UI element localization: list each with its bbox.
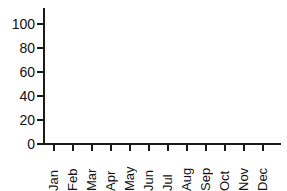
y-axis-tick-100 <box>37 23 43 25</box>
x-axis-tick-dec <box>262 145 264 151</box>
y-axis-tick-label-40: 40 <box>1 89 35 103</box>
x-axis-tick-label-jul: Jul <box>161 153 175 191</box>
x-axis-tick-feb <box>72 145 74 151</box>
y-axis-tick-40 <box>37 95 43 97</box>
x-axis-tick-apr <box>110 145 112 151</box>
x-axis-tick-may <box>129 145 131 151</box>
x-axis-tick-label-may: May <box>123 153 137 191</box>
y-axis-tick-label-0: 0 <box>1 137 35 151</box>
x-axis-tick-mar <box>91 145 93 151</box>
x-axis-tick-jan <box>53 145 55 151</box>
y-axis-tick-60 <box>37 71 43 73</box>
x-axis-tick-jul <box>167 145 169 151</box>
x-axis-tick-nov <box>243 145 245 151</box>
x-axis-tick-label-jan: Jan <box>47 153 61 191</box>
x-axis-tick-label-sep: Sep <box>199 153 213 191</box>
x-axis-tick-sep <box>205 145 207 151</box>
x-axis-tick-jun <box>148 145 150 151</box>
x-axis-tick-label-mar: Mar <box>85 153 99 191</box>
x-axis-tick-label-aug: Aug <box>180 153 194 191</box>
plot-area <box>45 8 281 143</box>
x-axis-tick-label-jun: Jun <box>142 153 156 191</box>
y-axis-tick-label-60: 60 <box>1 65 35 79</box>
y-axis-tick-label-80: 80 <box>1 41 35 55</box>
x-axis-tick-label-nov: Nov <box>237 153 251 191</box>
y-axis-tick-80 <box>37 47 43 49</box>
x-axis-line <box>43 143 281 145</box>
y-axis-tick-label-20: 20 <box>1 113 35 127</box>
x-axis-tick-label-feb: Feb <box>66 153 80 191</box>
x-axis-tick-label-dec: Dec <box>256 153 270 191</box>
y-axis-tick-label-100: 100 <box>1 17 35 31</box>
x-axis-tick-aug <box>186 145 188 151</box>
y-axis-tick-20 <box>37 119 43 121</box>
x-axis-tick-label-oct: Oct <box>218 153 232 191</box>
chart-container: 0 20 40 60 80 100 Jan Feb Mar Apr May Ju… <box>0 0 287 191</box>
x-axis-tick-label-apr: Apr <box>104 153 118 191</box>
x-axis-tick-oct <box>224 145 226 151</box>
